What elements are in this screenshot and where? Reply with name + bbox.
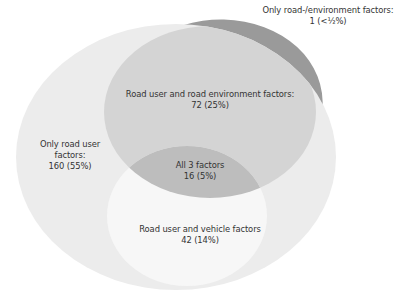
label-road-user-and-env: Road user and road environment factors: … [120,89,300,111]
label-road-env-only: Only road-/environment factors: 1 (<½%) [258,5,398,27]
label-road-user-and-vehicle-value: 42 (14%) [120,235,280,246]
label-all-three-title: All 3 factors [160,160,240,171]
label-all-three: All 3 factors 16 (5%) [160,160,240,182]
label-road-user-and-env-value: 72 (25%) [120,100,300,111]
label-road-env-only-title: Only road-/environment factors: [258,5,398,16]
label-road-user-and-vehicle: Road user and vehicle factors 42 (14%) [120,224,280,246]
label-road-user-only-title-2: factors: [30,150,110,161]
label-road-env-only-value: 1 (<½%) [258,16,398,27]
label-road-user-and-env-title: Road user and road environment factors: [120,89,300,100]
label-all-three-value: 16 (5%) [160,171,240,182]
label-road-user-only-title-1: Only road user [30,139,110,150]
label-road-user-only: Only road user factors: 160 (55%) [30,139,110,172]
label-road-user-and-vehicle-title: Road user and vehicle factors [120,224,280,235]
label-road-user-only-value: 160 (55%) [30,161,110,172]
